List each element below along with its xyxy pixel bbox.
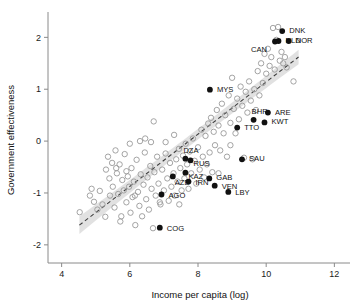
- x-tick-label: 4: [59, 269, 64, 279]
- x-tick-label: 12: [329, 269, 339, 279]
- point-label-lby: LBY: [235, 188, 249, 197]
- point-label-nld: NLD: [286, 36, 302, 45]
- scatter-plot-figure: DNKNORNLDCANMYSAREBHRKWTTTODZASAURUSKAZG…: [0, 0, 357, 305]
- plot-canvas: DNKNORNLDCANMYSAREBHRKWTTTODZASAURUSKAZG…: [0, 0, 357, 305]
- point-label-cog: COG: [167, 224, 184, 233]
- point-label-are: ARE: [275, 108, 291, 117]
- point-label-bhr: BHR: [252, 107, 269, 116]
- y-tick-label: 0: [36, 136, 41, 146]
- y-tick-label: 2: [36, 33, 41, 43]
- x-tick-label: 10: [261, 269, 271, 279]
- point-label-ago: AGO: [169, 191, 186, 200]
- point-label-mys: MYS: [217, 85, 233, 94]
- x-tick-label: 6: [127, 269, 132, 279]
- x-axis-title: Income per capita (log): [151, 289, 248, 300]
- y-axis-title: Government effectiveness: [5, 85, 16, 195]
- point-label-rus: RUS: [194, 159, 210, 168]
- point-label-sau: SAU: [249, 154, 265, 163]
- point-label-dnk: DNK: [289, 26, 305, 35]
- point-label-aze: AZE: [175, 178, 190, 187]
- highlighted-points: [157, 28, 292, 230]
- point-label-can: CAN: [251, 45, 267, 54]
- y-tick-label: 1: [36, 84, 41, 94]
- y-tick-label: -2: [33, 240, 41, 250]
- point-label-dza: DZA: [183, 146, 199, 155]
- point-label-irn: IRN: [196, 178, 209, 187]
- point-label-tto: TTO: [244, 123, 259, 132]
- x-tick-label: 8: [195, 269, 200, 279]
- y-tick-label: -1: [33, 188, 41, 198]
- point-label-kwt: KWT: [272, 117, 289, 126]
